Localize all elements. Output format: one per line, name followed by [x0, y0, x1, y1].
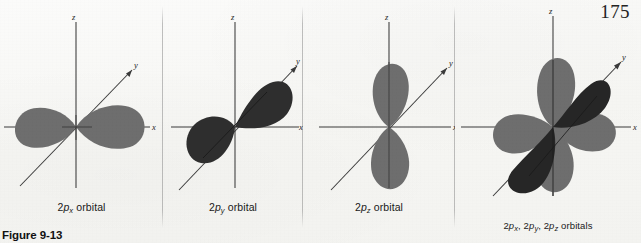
- caption-text: 2py orbital: [209, 201, 257, 213]
- y-axis-label: y: [295, 56, 300, 66]
- panel-2pz: z y x 2pz orbital: [303, 0, 455, 243]
- panel-2px: z y x 2px orbital: [0, 0, 163, 243]
- caption-2px: 2px orbital: [0, 201, 163, 213]
- panel-all-orbitals: z y x 2px, 2py, 2pz orbitals: [455, 0, 641, 243]
- lobe-x-negative: [15, 108, 76, 148]
- caption-text: 2px, 2py, 2pz orbitals: [503, 220, 592, 231]
- caption-2pz: 2pz orbital: [303, 201, 455, 213]
- z-axis-label: z: [71, 12, 76, 22]
- z-axis-label: z: [384, 12, 389, 22]
- orbital-lobes-y: [186, 81, 292, 163]
- lobe-y-positive: [235, 81, 293, 128]
- y-axis-label: y: [133, 60, 138, 70]
- caption-all-orbitals: 2px, 2py, 2pz orbitals: [455, 220, 641, 231]
- orbital-diagram-2py: z y x: [163, 0, 303, 200]
- lobe-z-positive: [373, 64, 409, 127]
- lobe-y-negative: [186, 116, 235, 163]
- orbital-diagram-2pz: z y x: [303, 0, 455, 200]
- caption-2py: 2py orbital: [163, 201, 303, 213]
- z-axis-label: z: [548, 6, 553, 16]
- figure-number: Figure 9-13: [2, 229, 62, 241]
- orbital-diagram-combined: z y x: [455, 0, 641, 200]
- lobe-z-negative: [371, 127, 409, 189]
- z-axis-label: z: [230, 12, 235, 22]
- panel-2py: z y x 2py orbital: [163, 0, 303, 243]
- orbital-lobes-combined: [493, 58, 616, 193]
- x-axis-label: x: [632, 122, 637, 132]
- caption-text: 2px orbital: [57, 201, 105, 213]
- orbital-diagram-2px: z y x: [0, 0, 163, 200]
- caption-text: 2pz orbital: [355, 201, 403, 213]
- y-axis-label: y: [621, 52, 626, 62]
- x-axis-label: x: [151, 122, 156, 132]
- y-axis-label: y: [448, 58, 453, 68]
- figure-panels: z y x 2px orbital z y x: [0, 0, 641, 243]
